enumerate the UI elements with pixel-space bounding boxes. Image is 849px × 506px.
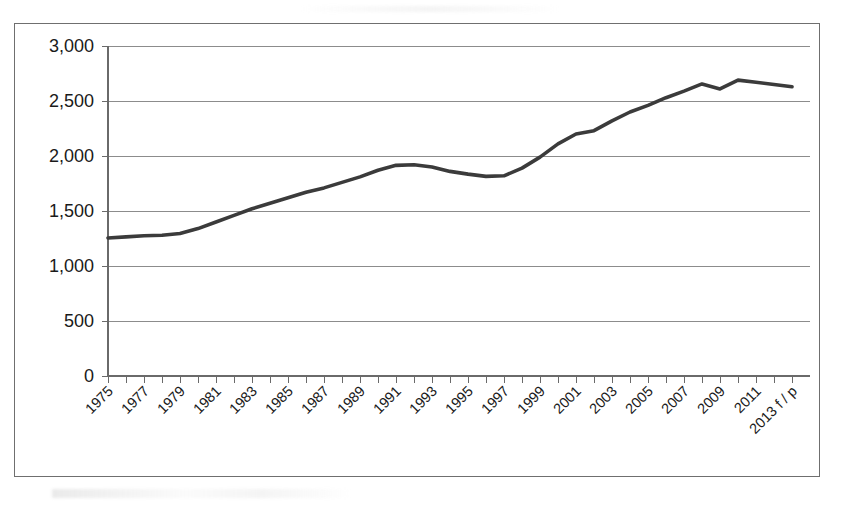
x-axis-tick-label: 1981 [190, 383, 224, 417]
gridlines-group [108, 46, 810, 321]
y-axis-tick-label: 500 [64, 311, 94, 331]
x-axis-tick-label: 1977 [118, 383, 152, 417]
x-axis-tick-label: 2003 [586, 383, 620, 417]
y-axis-tick-label: 1,500 [49, 201, 94, 221]
x-axis-tick-marks [108, 376, 792, 383]
x-axis-tick-labels: 1975197719791981198319851987198919911993… [82, 383, 800, 437]
x-axis-tick-label: 1983 [226, 383, 260, 417]
x-axis-tick-label: 1987 [298, 383, 332, 417]
x-axis-tick-label: 1991 [370, 383, 404, 417]
x-axis-tick-label: 2007 [658, 383, 692, 417]
x-axis-tick-label: 1985 [262, 383, 296, 417]
y-axis-tick-label: 2,500 [49, 91, 94, 111]
x-axis-tick-label: 1995 [442, 383, 476, 417]
y-axis-tick-label: 3,000 [49, 36, 94, 56]
y-axis-tick-label: 1,000 [49, 256, 94, 276]
x-axis-tick-label: 2001 [550, 383, 584, 417]
x-axis-tick-label: 1993 [406, 383, 440, 417]
x-axis-tick-label: 1999 [514, 383, 548, 417]
y-axis-tick-labels: 05001,0001,5002,0002,5003,000 [49, 36, 108, 386]
x-axis-tick-label: 1997 [478, 383, 512, 417]
x-axis-tick-label: 1975 [82, 383, 116, 417]
line-chart: 05001,0001,5002,0002,5003,000 1975197719… [0, 0, 849, 506]
y-axis-tick-label: 0 [84, 366, 94, 386]
x-axis-tick-label: 2009 [694, 383, 728, 417]
data-series-line [108, 80, 792, 238]
x-axis-tick-label: 1989 [334, 383, 368, 417]
y-axis-tick-label: 2,000 [49, 146, 94, 166]
x-axis-tick-label: 1979 [154, 383, 188, 417]
x-axis-tick-label: 2005 [622, 383, 656, 417]
